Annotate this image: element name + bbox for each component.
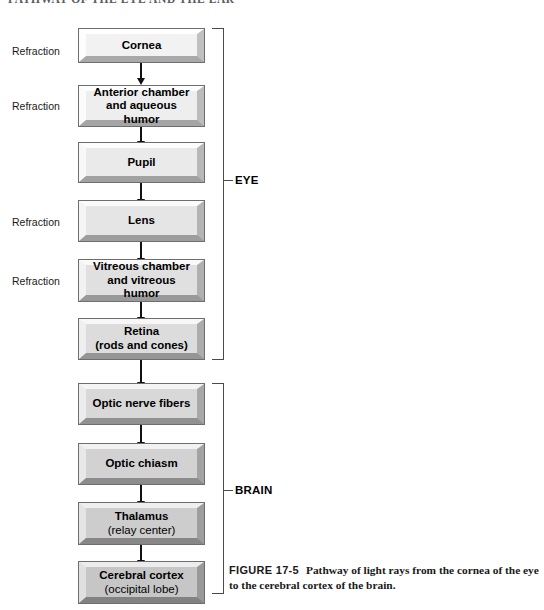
- arrow-vitreous-chamber-to-retina: [140, 302, 142, 318]
- arrow-anterior-chamber-to-pupil: [140, 127, 142, 142]
- flow-box-lens[interactable]: Lens: [78, 200, 205, 242]
- flow-box-vitreous-chamber[interactable]: Vitreous chamber and vitreous humor: [78, 259, 205, 302]
- arrow-pupil-to-lens: [140, 183, 142, 200]
- group-label-eye: EYE: [235, 174, 259, 186]
- flow-box-label: Optic chiasm: [96, 457, 186, 471]
- refraction-label-lens: Refraction: [12, 216, 74, 228]
- group-label-brain: BRAIN: [235, 484, 272, 496]
- arrow-thalamus-to-cerebral-cortex: [140, 545, 142, 561]
- group-bracket-brain: [212, 383, 224, 594]
- flow-box-anterior-chamber[interactable]: Anterior chamber and aqueous humor: [78, 85, 205, 127]
- flow-box-cerebral-cortex[interactable]: Cerebral cortex (occipital lobe): [78, 561, 205, 604]
- flow-box-label: Vitreous chamber and vitreous humor: [79, 260, 204, 301]
- flow-box-label: Retina (rods and cones): [86, 325, 197, 352]
- flow-box-line1: Retina: [124, 325, 159, 337]
- flow-box-label: Thalamus (relay center): [99, 510, 185, 537]
- flow-box-line1: Optic nerve fibers: [93, 397, 191, 409]
- flow-box-line1: Anterior chamber: [94, 86, 190, 98]
- flow-box-line2: and aqueous humor: [88, 99, 195, 126]
- flow-box-line1: Cornea: [122, 39, 162, 51]
- flow-box-cornea[interactable]: Cornea: [78, 28, 205, 63]
- page-running-header: PATHWAY OF THE EYE AND THE EAR: [8, 0, 428, 5]
- flow-box-line1: Cerebral cortex: [99, 569, 183, 581]
- flow-box-line2: (occipital lobe): [99, 583, 183, 597]
- flow-box-line1: Vitreous chamber: [93, 260, 190, 272]
- flow-box-line1: Thalamus: [115, 510, 169, 522]
- figure-root: PATHWAY OF THE EYE AND THE EAR Refractio…: [0, 0, 544, 610]
- flow-box-label: Optic nerve fibers: [84, 397, 200, 411]
- flow-box-label: Cerebral cortex (occipital lobe): [90, 569, 192, 596]
- refraction-label-vitreous-chamber: Refraction: [12, 275, 74, 287]
- flow-box-line2: (relay center): [108, 524, 176, 538]
- flow-box-line2: and vitreous humor: [88, 274, 195, 301]
- flow-box-optic-nerve-fibers[interactable]: Optic nerve fibers: [78, 383, 205, 425]
- arrow-lens-to-vitreous-chamber: [140, 242, 142, 259]
- flow-box-optic-chiasm[interactable]: Optic chiasm: [78, 443, 205, 485]
- group-bracket-tick-eye: [224, 180, 233, 181]
- flow-box-pupil[interactable]: Pupil: [78, 142, 205, 183]
- flow-box-thalamus[interactable]: Thalamus (relay center): [78, 502, 205, 545]
- group-bracket-eye: [212, 28, 224, 360]
- flow-box-retina[interactable]: Retina (rods and cones): [78, 318, 205, 360]
- figure-caption: FIGURE 17-5Pathway of light rays from th…: [229, 563, 539, 594]
- arrow-optic-nerve-fibers-to-optic-chiasm: [140, 425, 142, 443]
- flow-box-line1: Lens: [128, 214, 155, 226]
- arrow-head-icon: [137, 78, 145, 85]
- flow-box-label: Lens: [119, 214, 164, 228]
- arrow-retina-to-optic-nerve-fibers: [140, 360, 142, 383]
- refraction-label-anterior-chamber: Refraction: [12, 100, 74, 112]
- arrow-cornea-to-anterior-chamber: [140, 63, 142, 79]
- figure-number: FIGURE 17-5: [229, 564, 299, 576]
- flow-box-label: Cornea: [113, 39, 171, 53]
- refraction-label-cornea: Refraction: [12, 45, 74, 57]
- arrow-optic-chiasm-to-thalamus: [140, 485, 142, 502]
- flow-box-label: Anterior chamber and aqueous humor: [79, 86, 204, 127]
- group-bracket-tick-brain: [224, 490, 233, 491]
- flow-box-line1: Optic chiasm: [105, 457, 177, 469]
- flow-box-line2: (rods and cones): [95, 339, 188, 353]
- flow-box-label: Pupil: [118, 156, 164, 170]
- flow-box-line1: Pupil: [127, 156, 155, 168]
